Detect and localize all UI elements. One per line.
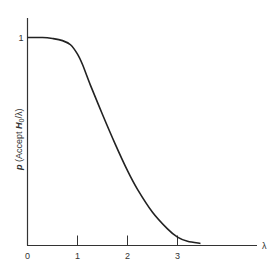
chart: 0123 1 λ p (Accept H0/λ) [0, 0, 278, 270]
x-tick-label: 2 [125, 251, 130, 261]
y-axis-title: p (Accept H0/λ) [14, 109, 25, 171]
x-tick-label: 1 [75, 251, 80, 261]
y-axis-title-text: (Accept [14, 129, 24, 165]
oc-curve [28, 37, 201, 243]
x-ticks: 0123 [25, 236, 180, 261]
x-axis-title: λ [262, 241, 267, 251]
y-tick-label: 1 [18, 33, 23, 43]
x-tick-label: 3 [175, 251, 180, 261]
y-ticks: 1 [18, 33, 23, 43]
x-tick-label: 0 [25, 251, 30, 261]
y-axis-title-tail: /λ) [14, 109, 24, 119]
